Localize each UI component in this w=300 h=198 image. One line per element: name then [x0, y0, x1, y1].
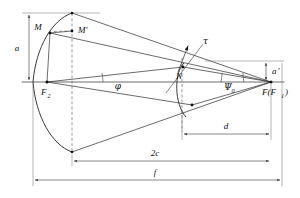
- label-point-f2: F: [40, 87, 47, 97]
- label-vector-tau: τ: [203, 36, 209, 46]
- ellipse-focus-diagram: a M M ′ F 2 F(F 1 ) N τ φ Ψ 0: [0, 0, 300, 198]
- label-point-f1-group: F(F 1 ): [261, 87, 288, 99]
- label-dimension-2c: 2c: [151, 148, 160, 158]
- label-point-f2-group: F 2: [40, 87, 51, 99]
- point-marker-f2: [46, 81, 49, 84]
- label-dimension-a-prime-tick: ′: [278, 66, 281, 76]
- ray-f2-to-n: [47, 67, 183, 82]
- point-marker-m: [49, 32, 52, 35]
- point-marker-n: [182, 66, 185, 69]
- ray-m-to-f1: [50, 33, 271, 82]
- label-point-m-prime-tick: ′: [86, 25, 89, 35]
- label-point-n: N: [175, 71, 183, 81]
- point-marker-apex-bottom: [71, 151, 74, 154]
- ray-apex-top-to-f1: [72, 13, 271, 82]
- ray-n-to-f1: [183, 67, 271, 82]
- label-point-m: M: [33, 22, 42, 32]
- ray-f2-to-m: [47, 33, 50, 82]
- ray-apex-bottom-to-f1: [72, 82, 271, 152]
- point-marker-lower: [191, 104, 194, 107]
- label-dimension-d: d: [224, 121, 229, 131]
- label-angle-psi-zero-group: Ψ 0: [224, 82, 236, 94]
- point-marker-apex-top: [71, 12, 74, 15]
- label-point-f1-close-paren: ): [284, 87, 288, 97]
- angle-arc-phi: [102, 73, 103, 82]
- label-dimension-a-prime-group: a ′: [272, 66, 281, 76]
- label-point-m-prime-group: M ′: [77, 25, 89, 35]
- label-dimension-f: f: [154, 167, 158, 177]
- label-angle-phi: φ: [115, 81, 122, 91]
- label-dimension-a-prime: a: [272, 66, 277, 76]
- diagram-canvas: a M M ′ F 2 F(F 1 ) N τ φ Ψ 0: [0, 0, 300, 198]
- point-marker-f1: [270, 81, 273, 84]
- point-marker-m-prime: [71, 30, 74, 33]
- label-point-f1-subscript: 1: [281, 92, 284, 99]
- label-dimension-a: a: [15, 43, 20, 53]
- angle-arc-psi-zero: [221, 73, 222, 82]
- label-point-f1: F(F: [261, 87, 276, 97]
- label-point-f2-subscript: 2: [48, 92, 51, 99]
